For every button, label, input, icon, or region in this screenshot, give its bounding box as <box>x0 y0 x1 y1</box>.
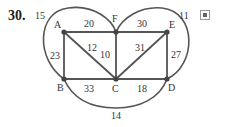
edge-weight-label: 20 <box>84 18 94 29</box>
edge-weight-label: 33 <box>84 83 94 94</box>
edge-weight-label: 31 <box>135 42 145 53</box>
vertex-label: E <box>169 19 175 30</box>
straight-edges <box>64 32 167 79</box>
edge-weight-label: 14 <box>111 110 121 121</box>
vertex-e <box>164 29 169 34</box>
vertex-label: B <box>57 82 64 93</box>
vertex-label: A <box>54 19 62 30</box>
edge-weight-label: 15 <box>35 10 45 21</box>
weighted-graph: 203023121031273318151114 AFEBCD <box>0 0 226 127</box>
edge-weight-label: 12 <box>87 42 97 53</box>
edge-weight-label: 23 <box>50 50 60 61</box>
edge-weight-label: 11 <box>179 10 189 21</box>
vertex-f <box>113 29 118 34</box>
vertex-c <box>113 76 118 81</box>
vertex-a <box>61 29 66 34</box>
expand-icon[interactable] <box>200 10 210 20</box>
edge-weight-label: 27 <box>171 49 181 60</box>
vertex-d <box>164 76 169 81</box>
vertex-label: D <box>168 82 175 93</box>
vertices: AFEBCD <box>54 13 175 94</box>
vertex-label: F <box>112 13 118 24</box>
edge-weight-label: 18 <box>137 83 147 94</box>
edge-weight-label: 30 <box>137 18 147 29</box>
edge-weight-label: 10 <box>100 49 110 60</box>
vertex-label: C <box>112 83 119 94</box>
expand-icon-dot <box>203 13 207 17</box>
edge-e-c <box>116 32 167 79</box>
vertex-b <box>61 76 66 81</box>
